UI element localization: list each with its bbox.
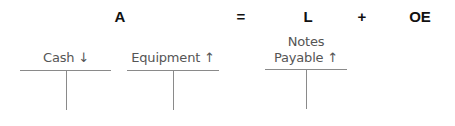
t-account-divider-line xyxy=(306,69,307,109)
t-account-label-cash: Cash ↓ xyxy=(6,50,126,66)
assets-heading: A xyxy=(100,8,140,26)
plus-sign: + xyxy=(342,8,382,26)
t-account-label-notes-line2: Payable ↑ xyxy=(246,50,366,66)
equals-sign: = xyxy=(221,8,261,26)
t-account-divider-line xyxy=(173,70,174,110)
t-account-label-equipment: Equipment ↑ xyxy=(113,50,233,66)
owners-equity-heading: OE xyxy=(400,8,440,26)
t-account-label-notes-line1: Notes xyxy=(246,34,366,50)
liabilities-heading: L xyxy=(288,8,328,26)
t-account-divider-line xyxy=(66,70,67,110)
